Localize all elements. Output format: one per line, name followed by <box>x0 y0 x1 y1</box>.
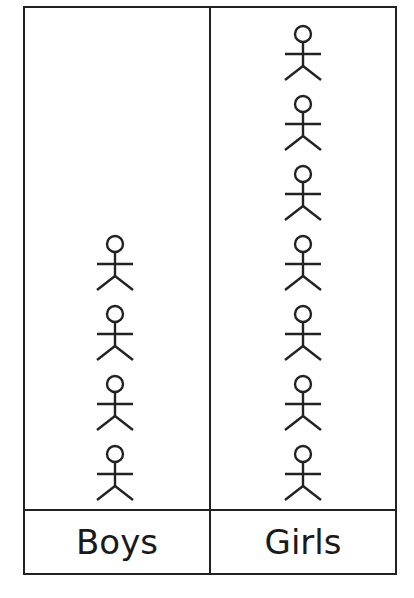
stick-figure-icon <box>97 236 133 290</box>
category-label-girls: Girls <box>211 511 395 573</box>
stick-figure-icon <box>285 446 321 500</box>
stick-figure-icon <box>97 446 133 500</box>
stick-figure-icon <box>285 96 321 150</box>
stick-figure-icon <box>285 26 321 80</box>
stick-figure-icon <box>97 376 133 430</box>
stick-figure-icon <box>285 376 321 430</box>
stick-figure-icon <box>285 166 321 220</box>
pictogram-figures <box>0 0 414 598</box>
category-label-boys: Boys <box>25 511 209 573</box>
stick-figure-icon <box>97 306 133 360</box>
stick-figure-icon <box>285 306 321 360</box>
stick-figure-icon <box>285 236 321 290</box>
